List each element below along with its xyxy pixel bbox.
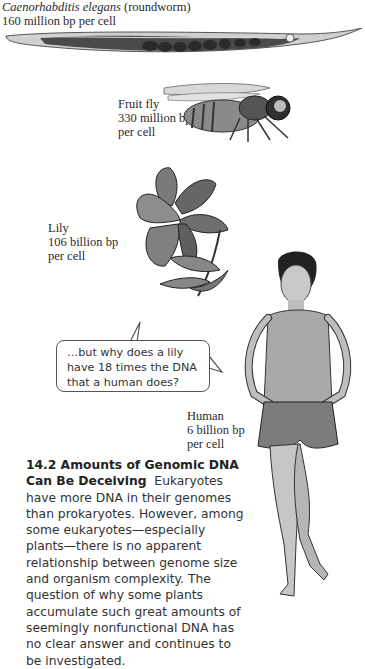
- human-label: Human 6 billion bp per cell: [187, 409, 245, 451]
- speech-bubble: …but why does a lily have 18 times the D…: [56, 340, 210, 392]
- human-genome-unit: per cell: [187, 437, 245, 451]
- human-name: Human: [187, 409, 245, 423]
- caption-body: Eukaryotes have more DNA in their genome…: [26, 474, 244, 667]
- speech-bubble-line-1: …but why does a lily: [67, 345, 209, 360]
- speech-bubble-line-3: that a human does?: [67, 375, 209, 390]
- human-genome-size: 6 billion bp: [187, 423, 245, 437]
- figure-caption: 14.2 Amounts of Genomic DNA Can Be Decei…: [26, 457, 246, 669]
- speech-bubble-line-2: have 18 times the DNA: [67, 360, 209, 375]
- human-illustration: [228, 244, 365, 602]
